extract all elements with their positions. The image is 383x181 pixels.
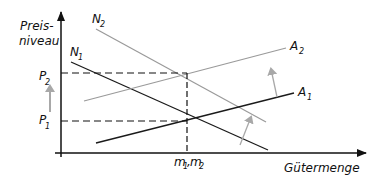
x-axis-label: Gütermenge <box>284 161 360 175</box>
svg-text:A: A <box>297 85 306 99</box>
supply-curve-a2 <box>84 48 286 101</box>
label-m1-m2: m 1 , m 2 <box>174 155 204 171</box>
label-a1: A 1 <box>297 85 312 102</box>
svg-text:A: A <box>289 39 298 53</box>
y-axis-label-line1: Preis- <box>20 19 53 33</box>
svg-text:1: 1 <box>45 122 50 131</box>
label-a2: A 2 <box>289 39 304 56</box>
svg-text:1: 1 <box>78 53 83 62</box>
svg-text:2: 2 <box>45 78 50 87</box>
label-p2: P 2 <box>39 69 50 87</box>
svg-text:2: 2 <box>299 47 304 56</box>
y-axis-label-line2: niveau <box>19 34 60 48</box>
svg-text:2: 2 <box>199 162 204 171</box>
market-diagram: Preis- niveau Gütermenge P 2 P 1 m 1 , m… <box>0 0 383 181</box>
supply-shift-arrow <box>271 69 277 97</box>
svg-text:2: 2 <box>100 20 105 29</box>
supply-curve-a1 <box>96 93 294 143</box>
label-n1: N 1 <box>70 45 83 62</box>
label-p1: P 1 <box>39 113 50 131</box>
demand-curve-n1 <box>71 62 268 150</box>
label-n2: N 2 <box>92 12 105 29</box>
demand-shift-arrow <box>240 117 251 145</box>
svg-text:1: 1 <box>307 93 312 102</box>
